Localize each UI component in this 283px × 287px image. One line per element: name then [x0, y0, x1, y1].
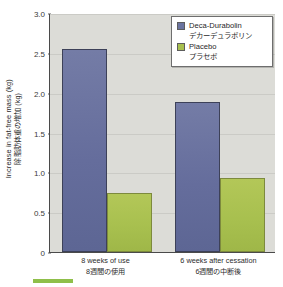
accent-bar — [33, 279, 73, 283]
y-axis-title-jp: 除脂肪体重の増加 (kg) — [14, 79, 24, 178]
y-axis-tick-3.0: 3.0 — [34, 10, 45, 19]
x-axis-category-labels: 8 weeks of use8週間の使用6 weeks after cessat… — [49, 256, 275, 282]
legend-label-placebo-jp: プラセボ — [189, 52, 217, 62]
y-axis-tick-1.0: 1.0 — [34, 169, 45, 178]
legend-label-deca-durabolin-jp: デカーデュラボリン — [189, 31, 252, 41]
legend: Deca-Durabolin デカーデュラボリン Placebo プラセボ — [171, 16, 273, 67]
legend-label-deca-durabolin-en: Deca-Durabolin — [189, 21, 242, 30]
y-axis-tick-0: 0 — [41, 249, 45, 258]
x-axis-label-en: 8 weeks of use — [81, 256, 130, 265]
x-axis-label-jp: 8週間の使用 — [49, 267, 162, 277]
legend-swatch-deca-durabolin — [177, 22, 185, 30]
bar-placebo[interactable] — [220, 178, 265, 252]
bar-deca-durabolin[interactable] — [62, 49, 107, 252]
x-axis-label-1: 6 weeks after cessation6週間の中断後 — [162, 256, 275, 277]
bar-group — [50, 14, 163, 252]
y-axis-title-en: Increase in fat-free mass (kg) — [4, 79, 13, 178]
y-axis-tick-2.0: 2.0 — [34, 89, 45, 98]
legend-item-placebo[interactable]: Placebo プラセボ — [177, 42, 268, 62]
y-axis-tick-2.5: 2.5 — [34, 49, 45, 58]
x-axis-label-0: 8 weeks of use8週間の使用 — [49, 256, 162, 277]
bar-deca-durabolin[interactable] — [175, 102, 220, 252]
legend-item-deca-durabolin[interactable]: Deca-Durabolin デカーデュラボリン — [177, 21, 268, 41]
bar-placebo[interactable] — [107, 193, 152, 252]
x-axis-label-jp: 6週間の中断後 — [162, 267, 275, 277]
chart-figure: Increase in fat-free mass (kg) 除脂肪体重の増加 … — [0, 0, 283, 287]
x-axis-label-en: 6 weeks after cessation — [180, 256, 256, 265]
y-axis-tick-labels: 00.51.01.52.02.53.0 — [24, 14, 48, 253]
y-axis-tick-1.5: 1.5 — [34, 129, 45, 138]
legend-swatch-placebo — [177, 43, 185, 51]
y-axis-tick-0.5: 0.5 — [34, 209, 45, 218]
legend-label-placebo-en: Placebo — [189, 42, 216, 51]
